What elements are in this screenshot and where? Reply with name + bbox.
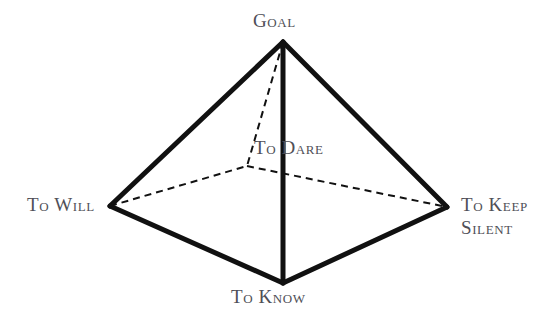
edge-right-to-front-solid	[283, 207, 447, 283]
vertex-label-to-keep-silent: To Keep Silent	[461, 193, 528, 239]
edge-apex-to-right-solid	[283, 42, 447, 207]
pyramid-diagram-canvas: Goal To Will To Keep Silent To Know To D…	[0, 0, 551, 324]
vertex-label-to-know: To Know	[231, 286, 306, 308]
pyramid-wireframe	[0, 0, 551, 324]
visible-edges-group	[110, 42, 447, 283]
vertex-label-to-keep-silent-line2: Silent	[461, 216, 528, 239]
hidden-edges-group	[110, 42, 447, 207]
vertex-label-goal: Goal	[253, 10, 296, 32]
vertex-label-to-will: To Will	[27, 194, 95, 216]
edge-back-to-right-dashed	[247, 166, 447, 207]
vertex-label-to-dare: To Dare	[254, 137, 324, 159]
vertex-label-to-keep-silent-line1: To Keep	[461, 193, 528, 216]
edge-left-to-front-solid	[110, 206, 283, 283]
